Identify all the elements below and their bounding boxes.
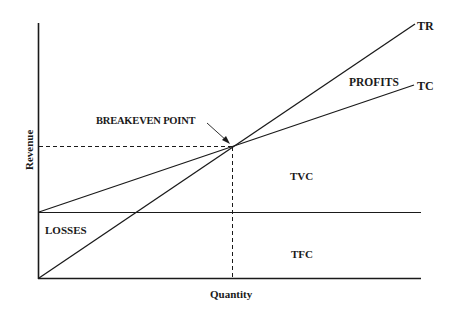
tfc-label: TFC bbox=[291, 248, 313, 260]
tvc-label: TVC bbox=[290, 170, 313, 182]
y-axis-label: Revenue bbox=[23, 130, 35, 170]
x-axis-label: Quantity bbox=[210, 288, 253, 300]
profits-label: PROFITS bbox=[349, 76, 399, 88]
breakeven-label: BREAKEVEN POINT bbox=[96, 115, 196, 126]
tc-line bbox=[39, 85, 414, 212]
breakeven-chart: TR TC PROFITS BREAKEVEN POINT TVC LOSSES… bbox=[0, 0, 455, 320]
tc-label: TC bbox=[417, 79, 434, 93]
tr-label: TR bbox=[417, 19, 434, 33]
tr-line bbox=[39, 24, 415, 278]
losses-label: LOSSES bbox=[45, 224, 87, 236]
